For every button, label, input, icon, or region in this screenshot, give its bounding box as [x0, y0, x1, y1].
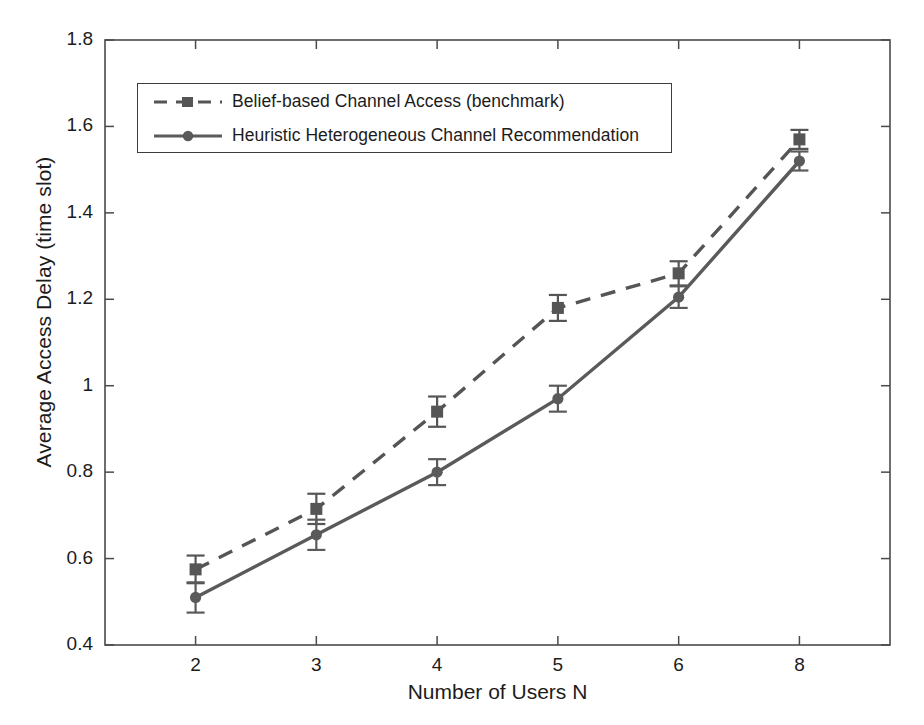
y-tick-label: 1 [33, 374, 93, 396]
y-tick-label: 0.4 [33, 633, 93, 655]
x-tick-label: 5 [538, 654, 578, 676]
data-point-marker [432, 467, 443, 478]
y-tick-label: 1.6 [33, 114, 93, 136]
legend-entry-benchmark: Belief-based Channel Access (benchmark) [138, 84, 671, 119]
y-tick-label: 0.8 [33, 460, 93, 482]
data-point-marker [311, 529, 322, 540]
data-point-marker [552, 393, 563, 404]
legend-label-benchmark: Belief-based Channel Access (benchmark) [232, 91, 565, 112]
x-tick-label: 3 [296, 654, 336, 676]
data-point-marker [310, 503, 322, 515]
data-point-marker [793, 133, 805, 145]
x-tick-label: 6 [659, 654, 699, 676]
data-point-marker [673, 292, 684, 303]
data-point-marker [431, 406, 443, 418]
data-point-marker [552, 302, 564, 314]
data-point-marker [190, 563, 202, 575]
figure-canvas: Average Access Delay (time slot) Number … [0, 0, 924, 725]
x-tick-label: 4 [417, 654, 457, 676]
x-tick-label: 8 [779, 654, 819, 676]
y-tick-label: 1.4 [33, 201, 93, 223]
x-tick-label: 2 [176, 654, 216, 676]
y-tick-label: 0.6 [33, 547, 93, 569]
legend-sample-solid-circle [152, 124, 224, 148]
y-tick-label: 1.2 [33, 287, 93, 309]
legend-sample-dashed-square [152, 90, 224, 114]
legend-label-heuristic: Heuristic Heterogeneous Channel Recommen… [232, 125, 639, 146]
legend-entry-heuristic: Heuristic Heterogeneous Channel Recommen… [138, 118, 671, 153]
data-point-marker [794, 155, 805, 166]
y-tick-label: 1.8 [33, 28, 93, 50]
data-point-marker [673, 267, 685, 279]
data-point-marker [190, 592, 201, 603]
legend: Belief-based Channel Access (benchmark) … [137, 83, 672, 153]
